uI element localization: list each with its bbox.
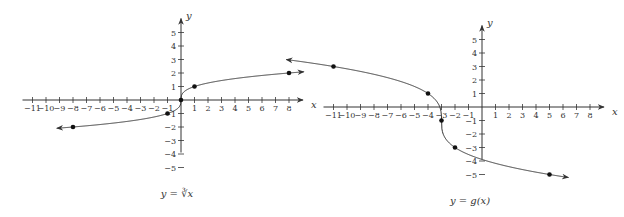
x-tick-label: −8 (67, 104, 79, 113)
x-tick-label: 7 (574, 111, 579, 120)
x-tick-label: 2 (506, 111, 511, 120)
x-tick-label: 8 (587, 111, 592, 120)
x-tick-label: −10 (38, 104, 55, 113)
marked-point (426, 91, 431, 96)
marked-point (165, 111, 170, 116)
y-tick-label: −4 (465, 157, 477, 166)
x-tick-label: −8 (368, 111, 380, 120)
y-tick-label: 3 (171, 56, 176, 65)
x-tick-label: −6 (94, 104, 106, 113)
x-tick-label: 3 (219, 104, 224, 113)
marked-point (179, 98, 184, 103)
y-tick-label: −5 (164, 164, 176, 173)
x-tick-label: −7 (81, 104, 93, 113)
y-tick-label: 5 (171, 29, 176, 38)
x-axis-label: x (612, 106, 618, 117)
x-tick-label: 6 (259, 104, 264, 113)
graph-caption: y = g(x) (449, 195, 490, 206)
x-tick-label: −7 (382, 111, 394, 120)
x-tick-label: 2 (205, 104, 210, 113)
x-tick-label: −2 (148, 104, 160, 113)
x-tick-label: −5 (108, 104, 120, 113)
x-tick-label: −5 (409, 111, 421, 120)
x-tick-label: 1 (192, 104, 197, 113)
x-tick-label: −9 (54, 104, 66, 113)
y-axis-label: y (486, 17, 493, 28)
y-tick-label: 1 (171, 83, 176, 92)
marked-point (287, 71, 292, 76)
x-tick-label: 3 (520, 111, 525, 120)
marked-point (547, 172, 552, 177)
y-tick-label: 5 (472, 36, 477, 45)
cube-root-graph: −11−10−9−8−7−6−5−4−3−2−112345678−5−4−3−2… (23, 10, 318, 200)
y-tick-label: −5 (465, 171, 477, 180)
graphs-canvas: −11−10−9−8−7−6−5−4−3−2−112345678−5−4−3−2… (0, 0, 624, 217)
y-tick-label: 4 (472, 49, 477, 58)
x-tick-label: −10 (339, 111, 356, 120)
marked-point (71, 125, 76, 130)
x-tick-label: −4 (422, 111, 434, 120)
marked-point (453, 145, 458, 150)
y-tick-label: 2 (472, 76, 477, 85)
y-tick-label: −3 (465, 144, 477, 153)
x-tick-label: 8 (286, 104, 291, 113)
y-tick-label: −3 (164, 137, 176, 146)
marked-point (192, 84, 197, 89)
x-tick-label: 5 (246, 104, 251, 113)
x-tick-label: −3 (135, 104, 147, 113)
y-tick-label: 3 (472, 63, 477, 72)
graph-caption: y = ∛x (160, 187, 194, 199)
x-tick-label: −4 (121, 104, 133, 113)
x-tick-label: −9 (355, 111, 367, 120)
x-tick-label: 1 (493, 111, 498, 120)
y-tick-label: −2 (465, 130, 477, 139)
x-tick-label: 7 (273, 104, 278, 113)
x-tick-label: 6 (560, 111, 565, 120)
y-tick-label: −4 (164, 150, 176, 159)
marked-point (331, 64, 336, 69)
x-tick-label: 4 (232, 104, 237, 113)
y-tick-label: 2 (171, 69, 176, 78)
g-of-x-graph: −11−10−9−8−7−6−5−4−3−2−112345678−5−4−3−2… (286, 17, 618, 207)
y-tick-label: −1 (465, 117, 477, 126)
y-tick-label: 4 (171, 42, 176, 51)
marked-point (439, 118, 444, 123)
x-tick-label: −2 (449, 111, 461, 120)
x-tick-label: 4 (533, 111, 538, 120)
x-tick-label: 5 (547, 111, 552, 120)
y-tick-label: 1 (472, 90, 477, 99)
x-axis-label: x (311, 99, 317, 110)
y-tick-label: −2 (164, 123, 176, 132)
x-tick-label: −6 (395, 111, 407, 120)
y-axis-label: y (185, 10, 192, 21)
